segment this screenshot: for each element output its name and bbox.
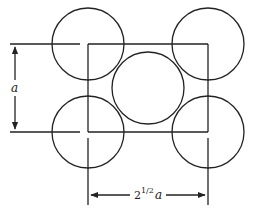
horizontal-dimension-var: a — [155, 188, 162, 202]
unit-cell-square — [88, 44, 208, 132]
horizontal-dimension-exponent: 1/2 — [141, 186, 154, 195]
center-atom — [112, 52, 184, 124]
horizontal-dimension-base: 2 — [134, 189, 141, 202]
horizontal-dimension: 2 1/2 a — [88, 138, 208, 205]
lattice-diagram: a 2 1/2 a — [0, 0, 259, 216]
vertical-dimension: a — [10, 44, 80, 132]
vertical-dimension-label: a — [11, 81, 18, 95]
